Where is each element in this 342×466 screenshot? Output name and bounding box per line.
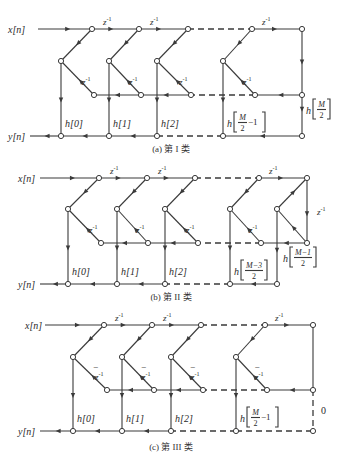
arrow-icon — [228, 246, 232, 251]
bracket-left — [234, 112, 237, 132]
node-icon — [101, 322, 106, 327]
delay-label: z-1 — [102, 16, 112, 27]
node-icon — [149, 322, 154, 327]
coefficient-symbol: h — [283, 253, 288, 264]
node-icon — [70, 354, 75, 359]
node-icon — [220, 58, 225, 63]
bracket-right — [313, 247, 316, 267]
arrow-icon — [121, 323, 126, 327]
node-icon — [233, 428, 238, 433]
fir-structure-figure: x[n]y[n]z-1z-1z-1z-1h[0]z-1h[1]z-1h[2]z-… — [0, 0, 342, 466]
arrow-icon — [169, 393, 173, 398]
panel-c: x[n]y[n]z-1z-1z-1−z-1h[0]−z-1h[1]−z-1h[2… — [17, 312, 326, 452]
coefficient-label: h[2] — [175, 413, 193, 424]
node-icon — [227, 281, 232, 286]
delay-label: z-1 — [128, 76, 138, 87]
fraction-denominator: 2 — [301, 259, 305, 268]
bracket-left — [241, 260, 244, 280]
arrow-icon — [66, 246, 70, 251]
arrow-icon — [156, 27, 161, 31]
node-icon — [310, 387, 315, 392]
node-icon — [65, 206, 70, 211]
arrow-icon — [45, 134, 50, 138]
fraction-denominator: 2 — [320, 111, 324, 120]
node-icon — [198, 322, 203, 327]
output-label-y: y[n] — [17, 279, 35, 290]
node-icon — [299, 92, 304, 97]
coefficient-label: hM2 −1 — [227, 112, 265, 133]
coefficient-value: h[2] — [161, 118, 179, 129]
arrow-icon — [163, 246, 167, 251]
node-icon — [98, 240, 103, 245]
arrow-icon — [251, 282, 256, 286]
delay-label: z-1 — [254, 371, 264, 382]
fraction-denominator: 2 — [252, 272, 256, 281]
fraction-denominator: 2 — [254, 419, 258, 428]
minus-sign: − — [255, 362, 260, 372]
node-icon — [274, 281, 279, 286]
panel-caption-a: (a) 第 I 类 — [152, 143, 190, 154]
stage-1: z-1h[1] — [114, 175, 150, 286]
input-label-x: x[n] — [24, 320, 42, 331]
arrow-icon — [56, 429, 61, 433]
delay-label: z-1 — [178, 76, 188, 87]
node-icon — [89, 26, 94, 31]
arrow-icon — [284, 241, 289, 245]
arrow-icon — [305, 211, 309, 216]
output-label-y: y[n] — [7, 131, 25, 142]
node-icon — [106, 58, 111, 63]
delay-label: z-1 — [268, 165, 278, 176]
node-icon — [58, 58, 63, 63]
arrow-icon — [275, 248, 279, 253]
coefficient-symbol: h — [234, 266, 239, 277]
arrow-icon — [164, 93, 169, 97]
arrow-icon — [122, 241, 127, 245]
arrow-icon — [139, 282, 144, 286]
arrow-icon — [71, 393, 75, 398]
minus-sign: − — [141, 362, 146, 372]
delay-label: z-1 — [114, 312, 124, 323]
arrow-icon — [131, 134, 136, 138]
node-icon — [70, 428, 75, 433]
tail-I: hM2 — [299, 26, 330, 138]
arrow-icon — [144, 429, 149, 433]
node-icon — [195, 240, 200, 245]
coefficient-value: h[2] — [169, 266, 187, 277]
fraction-denominator: 2 — [241, 124, 245, 133]
delay-label: z-1 — [157, 165, 167, 176]
delay-label: z-1 — [141, 371, 151, 382]
node-icon — [114, 206, 119, 211]
arrow-icon — [65, 27, 70, 31]
coefficient-value: h[1] — [126, 413, 144, 424]
node-icon — [58, 133, 63, 138]
coefficient-label: hM2 — [306, 99, 330, 120]
arrow-icon — [176, 388, 181, 392]
node-icon — [162, 206, 167, 211]
stage-2: z-1h[2] — [162, 175, 200, 286]
delay-label: z-1 — [242, 76, 252, 87]
node-icon — [233, 354, 238, 359]
delay-label: z-1 — [149, 16, 159, 27]
bracket-left — [313, 99, 316, 119]
coefficient-label: h[1] — [126, 413, 144, 424]
node-icon — [151, 387, 156, 392]
coefficient-value: h[1] — [113, 118, 131, 129]
arrow-icon — [116, 176, 121, 180]
node-icon — [119, 428, 124, 433]
node-icon — [299, 26, 304, 31]
coefficient-value: h[0] — [72, 266, 90, 277]
node-icon — [138, 92, 143, 97]
node-icon — [162, 281, 167, 286]
coefficient-label: hM−12 — [283, 247, 316, 268]
coefficient-symbol: h — [240, 413, 245, 424]
delay-label: z-1 — [81, 76, 91, 87]
node-icon — [168, 428, 173, 433]
arrow-icon — [272, 27, 277, 31]
arrow-icon — [234, 393, 238, 398]
node-icon — [168, 354, 173, 359]
arrow-icon — [107, 98, 111, 103]
node-icon — [220, 133, 225, 138]
node-icon — [185, 26, 190, 31]
stage-3: −z-1hM2 −1 — [233, 322, 278, 433]
arrow-icon — [300, 107, 304, 112]
